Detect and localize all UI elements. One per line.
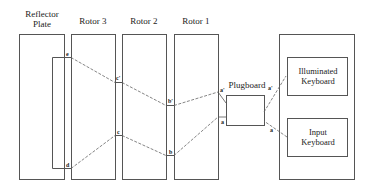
point-a-right: a xyxy=(270,127,273,133)
keyboard-housing-box xyxy=(280,35,355,180)
illuminated-keyboard-line2: Keyboard xyxy=(288,76,348,86)
input-keyboard-line1: Input xyxy=(288,127,348,137)
illuminated-keyboard-label: Illuminated Keyboard xyxy=(288,66,348,86)
point-a-prime-right: a' xyxy=(268,85,273,91)
wire-b-to-a xyxy=(174,117,218,156)
reflector-title-line1: Reflector xyxy=(12,9,72,19)
rotor-2-box xyxy=(123,35,167,180)
wire-c-prime-to-b-prime xyxy=(122,83,166,106)
point-e: e xyxy=(66,51,69,57)
wire-c-to-b xyxy=(122,136,166,156)
wire-input-to-plugboard xyxy=(264,121,287,137)
point-c-prime: c' xyxy=(116,75,120,81)
point-b: b xyxy=(169,149,172,155)
plugboard-arrow-a-prime xyxy=(218,92,226,103)
rotor-1-title: Rotor 1 xyxy=(171,16,221,26)
wire-e-to-c-prime xyxy=(71,58,115,83)
point-c: c xyxy=(117,129,120,135)
wire-d-to-c xyxy=(71,136,115,169)
wire-b-prime-to-a-prime xyxy=(174,92,218,106)
reflector-plate-title: Reflector Plate xyxy=(12,9,72,29)
rotor-1-box xyxy=(175,35,219,180)
reflector-wiring-loop xyxy=(53,58,72,169)
point-b-prime: b' xyxy=(168,98,173,104)
input-keyboard-label: Input Keyboard xyxy=(288,127,348,147)
point-a-left: a xyxy=(221,119,224,125)
point-a-prime-left: a' xyxy=(220,87,225,93)
rotor-3-title: Rotor 3 xyxy=(68,16,118,26)
rotor-2-title: Rotor 2 xyxy=(119,16,169,26)
reflector-title-line2: Plate xyxy=(12,19,72,29)
point-d: d xyxy=(66,162,69,168)
reflector-plate-box xyxy=(20,35,65,180)
illuminated-keyboard-line1: Illuminated xyxy=(288,66,348,76)
plugboard-title: Plugboard xyxy=(222,80,272,90)
input-keyboard-line2: Keyboard xyxy=(288,137,348,147)
plugboard-box xyxy=(227,96,265,126)
rotor-3-box xyxy=(72,35,116,180)
